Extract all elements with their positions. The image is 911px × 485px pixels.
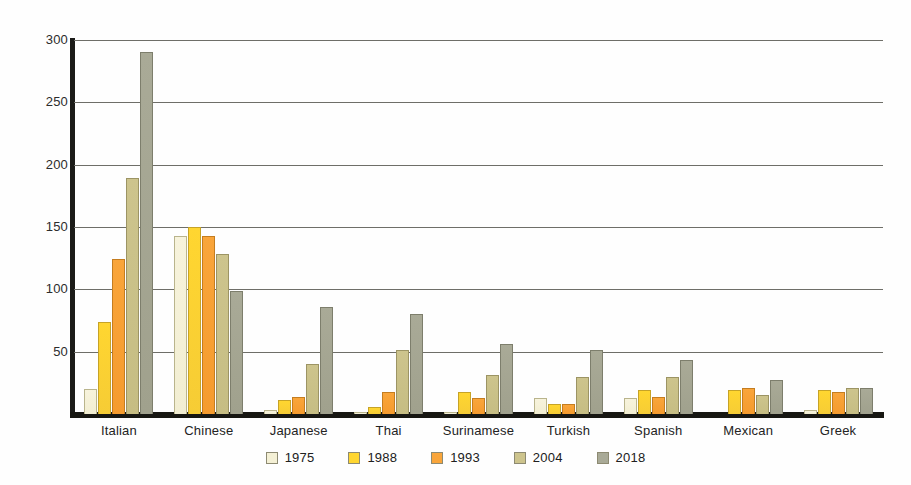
bar-japanese-1975	[264, 410, 277, 414]
bar-surinamese-2018	[500, 344, 513, 414]
category-label-spanish: Spanish	[613, 421, 703, 443]
bar-chinese-2018	[230, 291, 243, 414]
bar-italian-1975	[84, 389, 97, 414]
legend-item-1975[interactable]: 1975	[266, 450, 315, 465]
y-tick-label-250: 250	[34, 95, 68, 108]
legend-item-1988[interactable]: 1988	[348, 450, 397, 465]
bar-group-mexican	[703, 40, 793, 414]
bar-turkish-1975	[534, 398, 547, 414]
bar-mexican-1988	[728, 390, 741, 414]
bar-chinese-2004	[216, 254, 229, 414]
bar-group-spanish	[613, 40, 703, 414]
legend-swatch-icon-1975	[266, 452, 278, 464]
bar-spanish-1975	[624, 398, 637, 414]
legend-label-2018: 2018	[616, 450, 646, 465]
category-label-thai: Thai	[344, 421, 434, 443]
bar-surinamese-1993	[472, 398, 485, 414]
y-axis-ticks: 30025020015010050	[0, 40, 68, 414]
y-tick-label-300: 300	[34, 33, 68, 46]
bar-turkish-1988	[548, 404, 561, 414]
legend-item-2004[interactable]: 2004	[514, 450, 563, 465]
bar-chinese-1975	[174, 236, 187, 414]
category-label-surinamese: Surinamese	[434, 421, 524, 443]
legend-item-2018[interactable]: 2018	[597, 450, 646, 465]
bar-chinese-1988	[188, 227, 201, 414]
bar-spanish-2018	[680, 360, 693, 414]
bar-chart: 30025020015010050 ItalianChineseJapanese…	[0, 0, 911, 485]
chart-legend: 19751988199320042018	[0, 450, 911, 465]
category-label-japanese: Japanese	[254, 421, 344, 443]
legend-swatch-icon-1988	[348, 452, 360, 464]
legend-label-2004: 2004	[533, 450, 563, 465]
bar-group-turkish	[523, 40, 613, 414]
x-axis-category-labels: ItalianChineseJapaneseThaiSurinameseTurk…	[74, 421, 883, 443]
bar-spanish-1993	[652, 397, 665, 414]
bar-group-italian	[74, 40, 164, 414]
bar-japanese-2018	[320, 307, 333, 414]
bar-turkish-1993	[562, 404, 575, 414]
y-tick-label-150: 150	[34, 220, 68, 233]
bar-japanese-1993	[292, 397, 305, 414]
bar-surinamese-1975	[444, 412, 457, 414]
bar-japanese-2004	[306, 364, 319, 414]
legend-label-1975: 1975	[285, 450, 315, 465]
bar-mexican-1993	[742, 388, 755, 414]
plot-area	[74, 40, 883, 414]
bar-surinamese-1988	[458, 392, 471, 414]
legend-label-1993: 1993	[450, 450, 480, 465]
bar-spanish-2004	[666, 377, 679, 414]
bar-italian-2018	[140, 52, 153, 414]
y-tick-label-50: 50	[34, 345, 68, 358]
legend-swatch-icon-1993	[431, 452, 443, 464]
bar-thai-2018	[410, 314, 423, 414]
bar-group-surinamese	[434, 40, 524, 414]
bar-surinamese-2004	[486, 375, 499, 414]
bar-italian-2004	[126, 178, 139, 414]
bar-greek-2004	[846, 388, 859, 414]
y-tick-label-200: 200	[34, 158, 68, 171]
bar-groups	[74, 40, 883, 414]
bar-spanish-1988	[638, 390, 651, 414]
bar-greek-2018	[860, 388, 873, 414]
bar-thai-1993	[382, 392, 395, 414]
bar-thai-2004	[396, 350, 409, 414]
bar-italian-1988	[98, 322, 111, 414]
bar-thai-1988	[368, 407, 381, 414]
bar-group-greek	[793, 40, 883, 414]
legend-swatch-icon-2004	[514, 452, 526, 464]
bar-group-japanese	[254, 40, 344, 414]
bar-group-chinese	[164, 40, 254, 414]
bar-greek-1993	[832, 392, 845, 414]
bar-greek-1975	[804, 410, 817, 414]
bar-mexican-2004	[756, 395, 769, 414]
bar-japanese-1988	[278, 400, 291, 414]
bar-chinese-1993	[202, 236, 215, 414]
category-label-chinese: Chinese	[164, 421, 254, 443]
legend-label-1988: 1988	[367, 450, 397, 465]
bar-turkish-2004	[576, 377, 589, 414]
legend-item-1993[interactable]: 1993	[431, 450, 480, 465]
bar-group-thai	[344, 40, 434, 414]
category-label-greek: Greek	[793, 421, 883, 443]
y-tick-label-100: 100	[34, 282, 68, 295]
legend-swatch-icon-2018	[597, 452, 609, 464]
bar-greek-1988	[818, 390, 831, 414]
bar-thai-1975	[354, 412, 367, 414]
category-label-turkish: Turkish	[523, 421, 613, 443]
bar-mexican-2018	[770, 380, 783, 414]
category-label-italian: Italian	[74, 421, 164, 443]
bar-turkish-2018	[590, 350, 603, 414]
category-label-mexican: Mexican	[703, 421, 793, 443]
bar-italian-1993	[112, 259, 125, 414]
